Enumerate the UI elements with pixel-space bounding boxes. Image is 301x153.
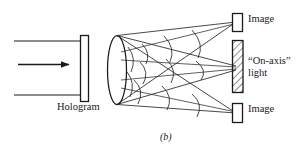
on-axis-light-label-line2: light — [248, 67, 291, 79]
incident-beam-group — [14, 41, 80, 95]
on-axis-hatched-block — [233, 41, 244, 93]
image-box-top — [233, 14, 243, 32]
image-label-top: Image — [248, 13, 274, 25]
hologram-diffraction-figure: Hologram Image “On-axis” light Image (b) — [0, 0, 301, 153]
cone-aperture-ellipse — [108, 36, 127, 105]
hologram-label: Hologram — [57, 101, 100, 113]
on-axis-light-label-line1: “On-axis” — [248, 55, 291, 67]
wavefront-arcs-upper-beam — [142, 30, 200, 64]
on-axis-light-label: “On-axis” light — [248, 55, 291, 78]
image-label-bottom: Image — [248, 103, 274, 115]
panel-label: (b) — [160, 131, 172, 143]
hologram-plate — [81, 36, 89, 102]
diffracted-light-cone — [108, 22, 237, 117]
image-box-bottom — [233, 104, 243, 123]
